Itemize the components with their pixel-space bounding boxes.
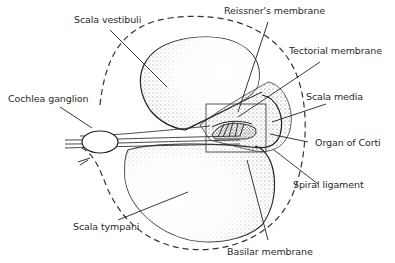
label-cochlea-ganglion: Cochlea ganglion	[8, 94, 88, 104]
label-basilar-membrane: Basilar membrane	[227, 247, 313, 257]
label-organ-of-corti: Organ of Corti	[315, 138, 381, 148]
label-reissners-membrane: Reissner's membrane	[224, 6, 325, 16]
cochlea-ganglion-shape	[82, 131, 118, 153]
cochlea-diagram	[0, 0, 395, 263]
label-tectorial-membrane: Tectorial membrane	[289, 46, 382, 56]
label-scala-vestibuli: Scala vestibuli	[74, 15, 141, 25]
arrow-mark	[78, 158, 90, 165]
label-spiral-ligament: Spiral ligament	[293, 180, 364, 190]
label-scala-tympani: Scala tympani	[73, 222, 139, 232]
scala-tympani-region	[125, 144, 275, 242]
label-scala-media: Scala media	[306, 92, 363, 102]
